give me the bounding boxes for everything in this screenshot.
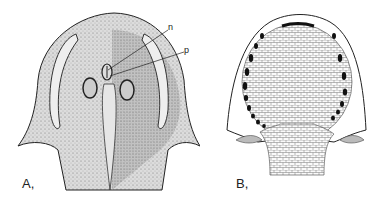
annotation-p: p: [184, 45, 189, 55]
panel-a: n p A,: [0, 0, 200, 198]
panel-b: B,: [200, 0, 381, 198]
annotation-n: n: [168, 22, 173, 32]
panel-a-label: A,: [22, 176, 34, 191]
panel-b-label: B,: [236, 176, 248, 191]
head-shield-tesserae-illustration: [200, 0, 381, 198]
